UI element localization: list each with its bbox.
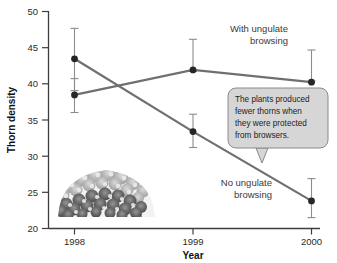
point-with-1998: [71, 92, 78, 99]
label-with-ungulate-browsing: With ungulate browsing: [230, 23, 288, 46]
y-tick-45: 45: [27, 42, 38, 53]
with-browsing-line1: With ungulate: [230, 23, 288, 34]
point-no-2000: [308, 198, 315, 205]
y-tick-25: 25: [27, 187, 38, 198]
point-no-1999: [190, 128, 197, 135]
with-browsing-line2: browsing: [250, 35, 288, 46]
y-axis-ticks: [42, 12, 49, 229]
no-browsing-line1: No ungulate: [221, 177, 272, 188]
x-axis-tick-labels: 1998 1999 2000: [64, 236, 322, 247]
y-tick-35: 35: [27, 115, 38, 126]
thorny-plant-illustration: [55, 165, 160, 223]
point-no-1998: [71, 55, 78, 62]
y-tick-30: 30: [27, 151, 38, 162]
x-axis-title: Year: [182, 250, 203, 261]
callout-line-1: The plants produced: [235, 95, 310, 104]
x-tick-2000: 2000: [301, 236, 322, 247]
callout-tail: [256, 148, 268, 163]
callout-line-2: fewer thorns when: [235, 107, 302, 116]
y-tick-40: 40: [27, 78, 38, 89]
no-browsing-line2: browsing: [234, 189, 272, 200]
callout-line-3: they were protected: [235, 119, 307, 128]
callout-line-4: from browsers.: [235, 131, 289, 140]
callout-annotation: The plants produced fewer thorns when th…: [228, 88, 328, 163]
point-with-1999: [190, 67, 197, 74]
error-bar-with-2000: [308, 50, 316, 81]
y-tick-50: 50: [27, 6, 38, 17]
thorn-density-figure: 50 45 40 35 30 25 20 1998 1999 2000 Year…: [0, 0, 337, 263]
y-axis-tick-labels: 50 45 40 35 30 25 20: [27, 6, 38, 234]
y-axis-title: Thorn density: [6, 87, 17, 154]
x-tick-1998: 1998: [64, 236, 85, 247]
x-axis-ticks: [75, 229, 312, 235]
point-with-2000: [308, 79, 315, 86]
chart-canvas: 50 45 40 35 30 25 20 1998 1999 2000 Year…: [0, 0, 337, 263]
y-tick-20: 20: [27, 223, 38, 234]
label-no-ungulate-browsing: No ungulate browsing: [221, 177, 272, 200]
x-tick-1999: 1999: [182, 236, 203, 247]
